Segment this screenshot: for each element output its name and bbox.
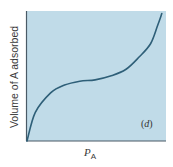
adsorption-isotherm-figure: Volume of A adsorbed PA (d): [0, 0, 173, 167]
panel-label: (d): [141, 118, 153, 129]
x-axis-label-subscript: A: [91, 152, 96, 161]
chart-svg: [0, 0, 173, 167]
y-axis-label: Volume of A adsorbed: [7, 13, 21, 141]
x-axis-label-main: P: [84, 146, 91, 158]
panel-letter: d: [144, 118, 149, 129]
x-axis-label: PA: [84, 146, 96, 158]
